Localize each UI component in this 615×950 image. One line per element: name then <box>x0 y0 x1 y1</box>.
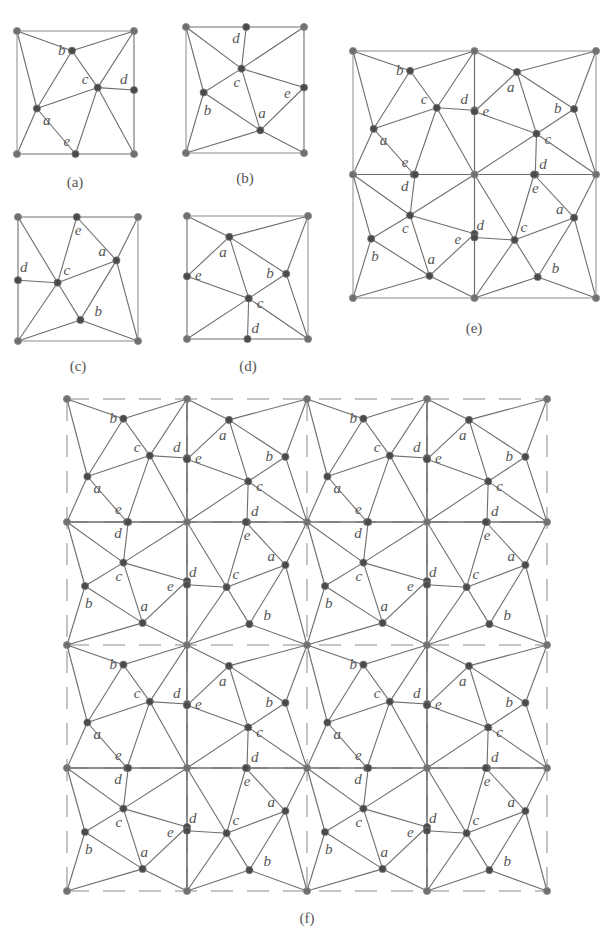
corner-vertex <box>304 212 311 219</box>
edge <box>525 811 547 891</box>
vertex-b <box>360 415 367 422</box>
edge <box>242 69 305 88</box>
vertex-label-b: b <box>552 260 560 276</box>
corner-vertex <box>543 764 550 771</box>
vertex-b <box>522 453 529 460</box>
vertex-label-e: e <box>115 501 122 517</box>
corner-vertex <box>134 213 141 220</box>
vertex-a <box>379 619 386 626</box>
vertex-label-d: d <box>173 685 181 701</box>
vertex-label-e: e <box>484 527 491 543</box>
edge <box>67 869 143 891</box>
edge <box>143 869 187 891</box>
corner-vertex <box>543 395 550 402</box>
edge <box>430 234 475 276</box>
corner-vertex <box>423 887 430 894</box>
corner-vertex <box>130 27 137 34</box>
vertex-b <box>282 453 289 460</box>
vertex-e <box>482 764 489 771</box>
vertex-c <box>223 584 230 591</box>
vertex-b <box>486 867 493 874</box>
vertex-d <box>125 518 132 525</box>
edge <box>307 399 327 477</box>
vertex-label-e: e <box>402 154 409 170</box>
vertex-label-c: c <box>233 566 240 582</box>
vertex-label-b: b <box>94 303 102 319</box>
vertex-label-b: b <box>554 100 562 116</box>
vertex-c <box>146 452 153 459</box>
vertex-label-d: d <box>491 749 499 765</box>
edge <box>187 727 248 768</box>
vertex-d <box>471 234 478 241</box>
vertex-b <box>120 661 127 668</box>
edge <box>76 88 98 154</box>
vertex-a <box>513 68 520 75</box>
edge <box>535 134 536 175</box>
vertex-label-d: d <box>539 156 547 172</box>
vertex-label-b: b <box>503 853 511 869</box>
edge <box>467 587 490 624</box>
vertex-c <box>54 279 61 286</box>
corner-vertex <box>423 641 430 648</box>
vertex-c <box>360 559 367 566</box>
corner-vertex <box>423 764 430 771</box>
vertex-label-e: e <box>407 578 414 594</box>
edge <box>353 51 374 129</box>
edge <box>410 215 474 234</box>
vertex-labels: abcde <box>43 42 128 149</box>
vertex-e <box>423 702 430 709</box>
vertex-label-d: d <box>173 439 181 455</box>
vertex-c <box>533 130 540 137</box>
vertices <box>13 27 137 157</box>
edge <box>390 456 427 458</box>
vertex-labels: abcdeaebcddcbeaeadcb <box>371 62 563 276</box>
edge <box>72 31 134 51</box>
vertex-c <box>120 805 127 812</box>
edge <box>17 31 37 109</box>
edge <box>427 587 467 645</box>
corner-vertex <box>471 171 478 178</box>
edge <box>98 88 134 90</box>
corner-vertex <box>349 47 356 54</box>
corner-vertex <box>130 150 137 157</box>
vertex-label-a: a <box>141 598 149 614</box>
corner-vertex <box>183 335 190 342</box>
vertex-b <box>571 105 578 112</box>
vertex-labels: dcbea <box>204 30 291 121</box>
vertex-d <box>365 518 372 525</box>
edge <box>246 522 286 565</box>
vertex-a <box>379 865 386 872</box>
vertex-b <box>321 582 328 589</box>
vertex-c <box>223 830 230 837</box>
edge <box>427 645 469 666</box>
vertex-label-b: b <box>266 265 274 281</box>
edge <box>67 832 85 891</box>
edge <box>517 51 596 72</box>
vertex-e <box>242 518 249 525</box>
vertex-b <box>522 699 529 706</box>
vertex-c <box>463 584 470 591</box>
vertex-label-e: e <box>284 85 291 101</box>
vertex-b <box>77 316 84 323</box>
vertex-label-d: d <box>429 564 437 580</box>
vertex-label-d: d <box>413 439 421 455</box>
panel-caption: (d) <box>239 358 257 375</box>
edge <box>85 586 143 623</box>
vertex-label-d: d <box>189 810 197 826</box>
edge <box>123 768 187 809</box>
edge <box>307 723 327 769</box>
corner-vertex <box>63 395 70 402</box>
corner-vertex <box>349 294 356 301</box>
edge <box>307 477 327 523</box>
edge <box>390 702 427 768</box>
vertex-b <box>486 621 493 628</box>
vertex-a <box>324 473 331 480</box>
edge <box>143 581 187 623</box>
vertex-a <box>282 561 289 568</box>
corner-vertex <box>63 764 70 771</box>
edge <box>517 72 574 109</box>
vertex-label-d: d <box>120 71 128 87</box>
edge <box>469 399 547 420</box>
edge <box>371 239 429 276</box>
vertex-label-a: a <box>381 844 389 860</box>
